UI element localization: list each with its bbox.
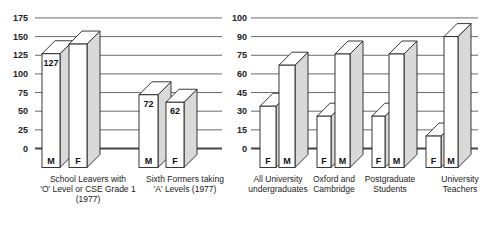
series-label: F bbox=[75, 156, 81, 166]
bar-side bbox=[87, 31, 100, 167]
y-tick-label: 75 bbox=[18, 88, 28, 98]
bar-m: M bbox=[389, 41, 417, 167]
school-qualifications-chart: 0255075100125150175M127FSchool Leavers w… bbox=[13, 13, 224, 204]
category-label: (1977) bbox=[76, 194, 101, 204]
chart-canvas: 0255075100125150175M127FSchool Leavers w… bbox=[0, 0, 493, 225]
category-label: Teachers bbox=[443, 184, 478, 194]
bar-side bbox=[295, 52, 308, 167]
series-label: M bbox=[283, 156, 291, 166]
university-gender-chart: 0153045607590100FMAll Universityundergra… bbox=[232, 13, 479, 194]
category-label: University bbox=[441, 174, 479, 184]
bar-front bbox=[389, 54, 404, 167]
bar-front bbox=[279, 65, 295, 167]
category-label: 'O' Level or CSE Grade 1 bbox=[40, 184, 136, 194]
bar-front bbox=[335, 54, 350, 167]
category-label: Oxford and bbox=[313, 174, 355, 184]
bar-f: F62 bbox=[166, 89, 197, 167]
y-tick-label: 30 bbox=[237, 106, 247, 116]
y-tick-label: 150 bbox=[13, 32, 28, 42]
y-tick-label: 90 bbox=[237, 32, 247, 42]
y-tick-label: 0 bbox=[242, 144, 247, 154]
bar-m: M bbox=[444, 24, 471, 168]
category-label: All University bbox=[253, 174, 303, 184]
y-tick-label: 100 bbox=[13, 69, 28, 79]
series-label: F bbox=[376, 156, 382, 166]
series-label: M bbox=[339, 156, 347, 166]
value-label: 127 bbox=[43, 58, 58, 68]
value-label: 72 bbox=[143, 99, 153, 109]
bar-f: F bbox=[69, 31, 100, 167]
bar-side bbox=[184, 89, 197, 167]
category-label: Students bbox=[373, 184, 407, 194]
category-label: undergraduates bbox=[248, 184, 308, 194]
y-tick-label: 100 bbox=[232, 13, 247, 23]
y-tick-label: 15 bbox=[237, 125, 247, 135]
y-tick-label: 45 bbox=[237, 88, 247, 98]
y-tick-label: 125 bbox=[13, 50, 28, 60]
bar-m: M bbox=[279, 52, 308, 167]
series-label: F bbox=[321, 156, 327, 166]
bar-front bbox=[444, 37, 458, 168]
bar-front bbox=[69, 44, 87, 167]
series-label: F bbox=[265, 156, 271, 166]
series-label: M bbox=[47, 156, 55, 166]
series-label: M bbox=[393, 156, 401, 166]
bar-m: M bbox=[335, 41, 363, 167]
series-label: M bbox=[447, 156, 455, 166]
y-tick-label: 75 bbox=[237, 50, 247, 60]
category-label: Cambridge bbox=[313, 184, 355, 194]
y-tick-label: 175 bbox=[13, 13, 28, 23]
bar-m: M127 bbox=[42, 41, 73, 168]
bar-side bbox=[350, 41, 363, 167]
bar-side bbox=[458, 24, 471, 168]
value-label: 62 bbox=[170, 106, 180, 116]
category-label: Sixth Formers taking bbox=[146, 174, 224, 184]
series-label: F bbox=[431, 156, 437, 166]
category-label: Postgraduate bbox=[365, 174, 416, 184]
y-tick-label: 60 bbox=[237, 69, 247, 79]
category-label: 'A' Levels (1977) bbox=[154, 184, 217, 194]
y-tick-label: 0 bbox=[23, 144, 28, 154]
series-label: F bbox=[172, 156, 178, 166]
bar-side bbox=[404, 41, 417, 167]
category-label: School Leavers with bbox=[50, 174, 126, 184]
series-label: M bbox=[145, 156, 153, 166]
bar-front bbox=[42, 54, 60, 168]
y-tick-label: 25 bbox=[18, 125, 28, 135]
y-tick-label: 50 bbox=[18, 106, 28, 116]
